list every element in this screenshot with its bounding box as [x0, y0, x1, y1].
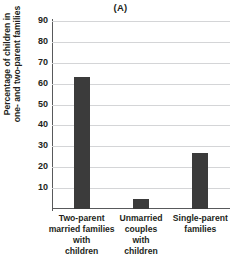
y-axis-tick-label: 90 — [24, 16, 48, 25]
y-axis-title-line-2: one- and two-parent families — [12, 6, 22, 123]
y-axis-tick-label: 80 — [24, 37, 48, 46]
x-axis-labels: Two-parentmarried familieswithchildrenUn… — [52, 213, 230, 270]
bar-chart-figure: (A) Percentage of children in one- and t… — [0, 0, 241, 270]
plot-area — [52, 21, 230, 209]
x-axis-category-line: with — [73, 235, 90, 246]
x-axis-category-line: Single-parent — [173, 213, 228, 224]
y-axis-tick-label: 10 — [24, 183, 48, 192]
y-axis-tick-label: 60 — [24, 79, 48, 88]
y-axis-tick-label: 30 — [24, 141, 48, 150]
x-axis-category-label: Two-parentmarried familieswithchildren — [52, 213, 111, 257]
gridline — [52, 21, 230, 22]
gridline — [52, 42, 230, 43]
x-axis-category-line: couples — [125, 224, 157, 235]
x-axis-category-label: Single-parentfamilies — [171, 213, 230, 235]
x-axis-category-line: children — [65, 246, 98, 257]
y-axis-tick-label: 20 — [24, 162, 48, 171]
y-axis-tick-label: 70 — [24, 58, 48, 67]
gridline — [52, 63, 230, 64]
y-axis-title-line-1: Percentage of children in — [2, 13, 12, 116]
y-axis-tick-label: 40 — [24, 120, 48, 129]
x-axis-category-line: families — [184, 224, 216, 235]
chart-title: (A) — [0, 2, 241, 13]
bar[interactable] — [192, 153, 208, 209]
x-axis-category-line: children — [124, 246, 157, 257]
x-axis-category-line: married families — [49, 224, 115, 235]
x-axis-category-line: with — [132, 235, 149, 246]
x-axis-category-label: Unmarriedcoupleswithchildren — [111, 213, 170, 257]
x-axis-category-line: Unmarried — [120, 213, 163, 224]
y-axis-tick-label: 50 — [24, 100, 48, 109]
bar[interactable] — [133, 199, 149, 209]
y-axis-title: Percentage of children in one- and two-p… — [0, 0, 26, 144]
bar[interactable] — [74, 77, 90, 209]
x-axis-category-line: Two-parent — [59, 213, 105, 224]
